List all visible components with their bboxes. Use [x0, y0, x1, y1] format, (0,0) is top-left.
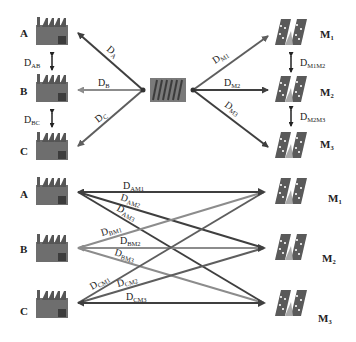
label-d-b: DB — [98, 77, 110, 89]
bottom-market-label-m3: M3 — [318, 312, 332, 325]
factory-icon-c — [36, 132, 68, 160]
bottom-factory-label-c: C — [20, 305, 28, 317]
arrow-hub-to-a — [78, 33, 143, 90]
distance-diagram: A B C DAB DBC DA DB DC — [0, 0, 356, 342]
label-d-c: DC — [92, 109, 109, 126]
hub-warehouse-icon — [150, 78, 186, 102]
bottom-market-label-m1: M1 — [328, 192, 342, 205]
label-d-m2m3: DM2M3 — [300, 111, 325, 123]
top-network: A B C DAB DBC DA DB DC — [20, 17, 334, 160]
market-icon-m3 — [275, 132, 307, 158]
label-d-m1: DM1 — [210, 48, 230, 67]
bottom-factory-label-b: B — [20, 243, 28, 255]
market-icon-m3-bottom — [275, 290, 307, 316]
market-icon-m2-bottom — [275, 234, 307, 260]
market-icon-m1-bottom — [275, 178, 307, 204]
label-d-bm3: DBM3 — [113, 246, 136, 264]
bottom-factory-label-a: A — [20, 188, 28, 200]
label-d-bc: DBC — [24, 114, 40, 126]
market-icon-m1 — [275, 19, 307, 45]
factory-icon-b — [36, 74, 68, 102]
label-d-m2: DM2 — [224, 77, 240, 89]
top-market-label-m3: M3 — [320, 138, 334, 151]
factory-icon-c-bottom — [36, 290, 68, 318]
label-d-cm2: DCM2 — [115, 272, 138, 290]
top-market-label-m2: M2 — [320, 86, 334, 99]
top-market-label-m1: M1 — [320, 28, 334, 41]
factory-icon-b-bottom — [36, 234, 68, 262]
market-icon-m2 — [275, 76, 307, 102]
factory-icon-a-bottom — [36, 177, 68, 205]
bottom-market-label-m2: M2 — [322, 252, 336, 265]
label-d-am1: DAM1 — [123, 180, 144, 192]
top-factory-label-a: A — [20, 27, 28, 39]
arrow-hub-to-c — [78, 90, 143, 146]
top-factory-label-c: C — [20, 145, 28, 157]
label-d-m1m2: DM1M2 — [300, 57, 325, 69]
bottom-network: A B C DAM1 DAM2 DAM3 DBM1 DBM2 DBM3 DCM1… — [20, 177, 342, 325]
label-d-cm3: DCM3 — [126, 291, 147, 303]
label-d-bm2: DBM2 — [120, 235, 141, 247]
factory-icon-a — [36, 17, 68, 45]
label-d-ab: DAB — [24, 57, 41, 69]
top-factory-label-b: B — [20, 85, 28, 97]
